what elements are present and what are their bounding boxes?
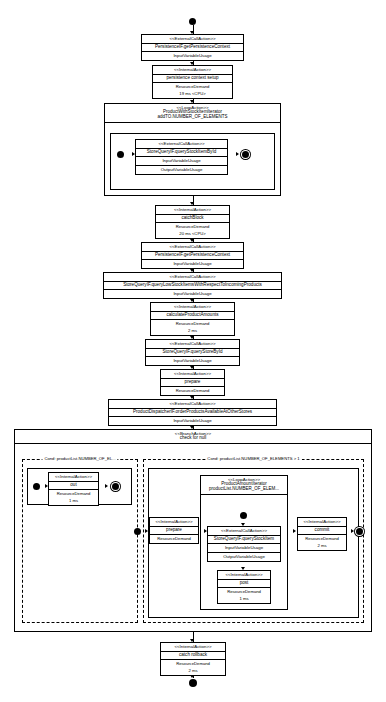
stereotype-label: <<ExternalCallAction>> [104,273,281,281]
action-name: StoreQueryIF.queryStoreById [146,348,239,357]
output-variable-usage: OutputVariableUsage [208,552,280,561]
loop-body-start-node [117,151,124,158]
inner-loop-start-node [240,512,247,519]
input-variable-usage: InputVariableUsage [142,259,243,268]
input-variable-usage: InputVariableUsage [136,156,227,165]
node-persistence-context-setup[interactable]: <<InternalAction>> persistence context s… [152,65,233,99]
guard-left-start-node [33,483,40,490]
action-name: catchBlock [156,214,229,223]
action-name: commit [298,526,346,535]
stereotype-label: <<ExternalCallAction>> [109,400,276,408]
node-query-store-by-id[interactable]: <<ExternalCallAction>> StoreQueryIF.quer… [145,339,240,366]
resource-demand-label: ResourceDemand [151,319,234,327]
action-name: prepare [161,378,224,387]
stop-node [189,679,197,687]
node-query-stock-item-by-id[interactable]: <<ExternalCallAction>> StoreQueryIF.quer… [135,139,228,175]
branch-name: check for null [17,436,369,441]
action-name: ProductDispatcherIF.orderProductsAvailab… [109,408,276,417]
node-catch-block[interactable]: <<InternalAction>> catchBlock ResourceDe… [155,205,230,239]
node-prepare-outer[interactable]: <<InternalAction>> prepare ResourceDeman… [160,369,225,396]
resource-demand-label: ResourceDemand [298,534,346,542]
node-order-products-available[interactable]: <<ExternalCallAction>> ProductDispatcher… [108,399,277,426]
node-out-action[interactable]: <<InternalAction>> out ResourceDemand 1 … [48,472,99,506]
action-name: prepare [150,526,198,535]
stereotype-label: <<ExternalCallAction>> [208,527,280,535]
node-get-persistence-context-2[interactable]: <<ExternalCallAction>> PersistenceIF.get… [141,242,244,269]
action-name: StoreQueryIF.queryStockItemById [136,148,227,157]
action-name: StoreQueryIF.queryStockItem [208,535,280,544]
stereotype-label: <<InternalAction>> [150,518,198,526]
resource-demand-value: 20 ms <CPU> [156,231,229,238]
stereotype-label: <<InternalAction>> [151,303,234,311]
resource-demand-value: 19 ms <CPU> [153,91,232,98]
node-prepare-inner[interactable]: <<InternalAction>> prepare ResourceDeman… [149,517,199,544]
output-variable-usage: OutputVariableUsage [136,165,227,174]
input-variable-usage: InputVariableUsage [146,356,239,365]
branch-header: <<BranchAction>> check for null [15,430,371,444]
action-name: calculateProductAmounts [151,311,234,320]
stereotype-label: <<ExternalCallAction>> [146,340,239,348]
action-name: persistence context setup [153,74,232,83]
resource-demand-label: ResourceDemand [150,534,198,542]
input-variable-usage: InputVariableUsage [142,51,243,60]
guard-condition-right: Cond: productList.NUMBER_OF_ELEMENTS > 1 [205,457,301,461]
stereotype-label: <<ExternalCallAction>> [142,35,243,43]
stereotype-label: <<InternalAction>> [156,206,229,214]
resource-demand-label: ResourceDemand [161,659,225,667]
resource-demand-value: 1 ms [218,596,270,603]
loop-body-end-node [242,151,249,158]
stereotype-label: <<InternalAction>> [218,571,270,579]
resource-demand-label: ResourceDemand [156,222,229,230]
action-name: StoreQueryIF.queryLowStockItemsWithRespe… [104,281,281,290]
node-post-action[interactable]: <<InternalAction>> post ResourceDemand 1… [217,570,271,604]
stereotype-label: <<InternalAction>> [153,66,232,74]
resource-demand-label: ResourceDemand [161,386,224,394]
node-query-stock-item[interactable]: <<ExternalCallAction>> StoreQueryIF.quer… [207,526,281,562]
loop-count: addTO.NUMBER_OF_ELEMENTS [107,115,278,120]
stereotype-label: <<ExternalCallAction>> [142,243,243,251]
resource-demand-label: ResourceDemand [49,489,98,497]
stereotype-label: <<ExternalCallAction>> [136,140,227,148]
action-name: out [49,481,98,490]
loop-header: <<LoopAction>> ProductWithStockItemItera… [105,104,280,123]
input-variable-usage: InputVariableUsage [104,289,281,298]
action-name: catch rollback [161,651,225,660]
node-catch-rollback[interactable]: <<InternalAction>> catch rollback Resour… [160,642,226,676]
action-name: PersistenceIF.getPersistenceContext [142,251,243,260]
start-node [189,18,196,25]
node-calculate-product-amounts[interactable]: <<InternalAction>> calculateProductAmoun… [150,302,235,336]
action-name: post [218,579,270,588]
input-variable-usage: InputVariableUsage [208,543,280,552]
node-get-persistence-context-1[interactable]: <<ExternalCallAction>> PersistenceIF.get… [141,34,244,61]
guard-right-end-node [356,528,363,535]
activity-diagram-canvas: <<ExternalCallAction>> PersistenceIF.get… [0,0,386,702]
stereotype-label: <<InternalAction>> [161,370,224,378]
resource-demand-label: ResourceDemand [153,82,232,90]
resource-demand-value: 2 ms [151,328,234,335]
input-variable-usage: InputVariableUsage [109,416,276,425]
guard-right-start-node [134,528,141,535]
node-query-low-stock-items[interactable]: <<ExternalCallAction>> StoreQueryIF.quer… [103,272,282,299]
stereotype-label: <<InternalAction>> [161,643,225,651]
guard-left-end-node [112,483,119,490]
resource-demand-value: 2 ms [161,668,225,675]
resource-demand-value: 1 ms [49,498,98,505]
guard-condition-left: Cond: productList.NUMBER_OF_EL... [42,457,117,461]
stereotype-label: <<InternalAction>> [49,473,98,481]
action-name: PersistenceIF.getPersistenceContext [142,43,243,52]
resource-demand-label: ResourceDemand [218,587,270,595]
resource-demand-value: 2 ms [298,543,346,550]
stereotype-label: <<InternalAction>> [298,518,346,526]
node-commit-action[interactable]: <<InternalAction>> commit ResourceDemand… [297,517,347,551]
